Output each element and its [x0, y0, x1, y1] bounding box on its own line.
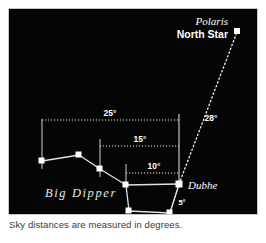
star-marker-polaris: [234, 28, 240, 34]
figure-caption: Sky distances are measured in degrees.: [9, 219, 239, 231]
star-marker: [39, 158, 45, 164]
measurement-label-25: 25°: [104, 108, 117, 118]
sky-diagram-svg: Polaris North Star Dubhe Big Dipper 25° …: [9, 9, 257, 214]
star-marker: [76, 152, 82, 158]
night-sky-panel: Polaris North Star Dubhe Big Dipper 25° …: [8, 8, 258, 215]
star-marker: [167, 210, 173, 215]
star-marker: [126, 208, 132, 214]
big-dipper-label: Big Dipper: [45, 186, 117, 200]
measurement-label-15: 15°: [134, 134, 147, 144]
polaris-label: Polaris: [195, 15, 228, 27]
line-alioth-megrez: [100, 169, 126, 185]
line-alkaid-mizar: [42, 155, 79, 161]
star-chart-figure: Polaris North Star Dubhe Big Dipper 25° …: [0, 0, 266, 243]
line-megrez-dubhe: [126, 184, 179, 185]
pointer-line-dubhe-polaris: [179, 32, 237, 184]
line-phecda-merak: [129, 211, 170, 213]
star-marker: [123, 182, 129, 188]
star-marker: [97, 166, 103, 172]
dubhe-label: Dubhe: [187, 179, 217, 191]
line-megrez-phecda: [126, 185, 129, 211]
polaris-subtitle-label: North Star: [177, 28, 228, 40]
star-marker-dubhe: [176, 181, 183, 188]
measurement-label-28: 28°: [205, 113, 218, 123]
measurement-label-5: 5°: [178, 198, 185, 207]
measurement-label-10: 10°: [148, 161, 161, 171]
